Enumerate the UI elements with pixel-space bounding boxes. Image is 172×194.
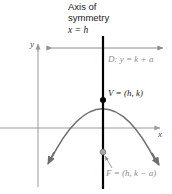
x-axis-label: x bbox=[158, 129, 162, 139]
vertex-label: V = (h, k) bbox=[108, 88, 143, 98]
axis-of-symmetry-equation: x = h bbox=[68, 25, 88, 36]
title-text: Axis of symmetry bbox=[68, 2, 109, 24]
focus-label: F = (h, k − a) bbox=[106, 168, 156, 178]
parabola-diagram: Axis of symmetry x = h y x D: y = k + a … bbox=[0, 0, 172, 194]
title-line1: Axis of bbox=[68, 1, 97, 12]
focus-leader-line bbox=[105, 156, 112, 168]
focus-point bbox=[100, 149, 106, 155]
title-line2: symmetry bbox=[68, 12, 109, 23]
parabola-right-arrow bbox=[152, 153, 159, 165]
directrix-label: D: y = k + a bbox=[108, 54, 153, 64]
vertex-point bbox=[100, 97, 106, 103]
parabola-left-arrow bbox=[48, 152, 54, 164]
y-axis-label: y bbox=[30, 39, 34, 49]
